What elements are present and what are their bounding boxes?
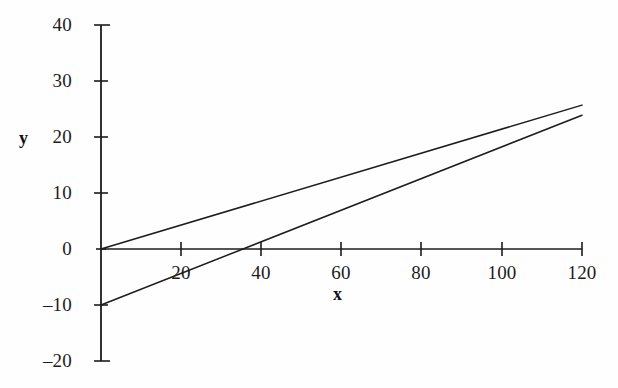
y-tick-label-minus-20: –20 bbox=[18, 350, 72, 372]
y-tick-label-minus-10: –10 bbox=[18, 294, 72, 316]
y-axis-title: y bbox=[19, 128, 28, 149]
y-tick-label-0: 0 bbox=[24, 238, 72, 260]
x-tick-label-120: 120 bbox=[552, 262, 612, 284]
y-tick-label-40: 40 bbox=[24, 14, 72, 36]
plot-area bbox=[0, 0, 618, 388]
x-tick-label-40: 40 bbox=[231, 262, 291, 284]
line-chart-figure: 40 30 20 10 0 –10 –20 20 40 60 80 100 12… bbox=[0, 0, 618, 388]
y-tick-label-10: 10 bbox=[24, 182, 72, 204]
x-tick-label-100: 100 bbox=[472, 262, 532, 284]
x-tick-label-20: 20 bbox=[151, 262, 211, 284]
y-tick-label-30: 30 bbox=[24, 70, 72, 92]
x-axis-title: x bbox=[333, 284, 342, 305]
y-tick-label-20: 20 bbox=[24, 126, 72, 148]
x-tick-label-80: 80 bbox=[391, 262, 451, 284]
y-tick-marks bbox=[94, 25, 110, 361]
axis-lines bbox=[101, 25, 582, 361]
series-line-1 bbox=[101, 105, 582, 249]
x-tick-label-60: 60 bbox=[311, 262, 371, 284]
